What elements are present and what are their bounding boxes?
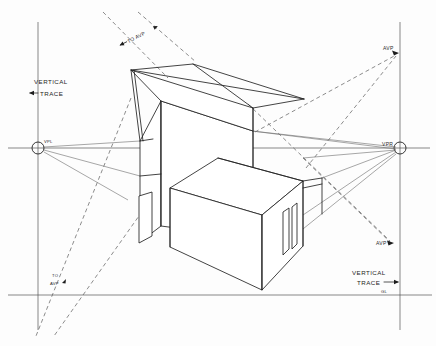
guide-vpr-d bbox=[303, 152, 396, 215]
dashed-to-avp-top-right-a bbox=[255, 55, 396, 132]
avp-bottom-right-label: AVP bbox=[376, 240, 387, 246]
to-avp-top-arrow-head-right bbox=[153, 24, 159, 30]
front-wing-eave-ext bbox=[303, 178, 322, 181]
vertical-trace-right-label-line1: VERTICAL bbox=[352, 269, 386, 276]
dashed-to-avp-bottom-left-b bbox=[54, 206, 146, 336]
door-opening-left bbox=[283, 208, 289, 255]
front-wing-block bbox=[170, 158, 322, 290]
vpl-label: VPL bbox=[44, 139, 53, 144]
avp-bottom-right-arrow-head bbox=[387, 241, 394, 246]
dashed-to-avp-bottom-right-b bbox=[303, 158, 390, 242]
guide-vpl-b bbox=[44, 150, 140, 176]
perspective-svg: VERTICAL TRACE VERTICAL TRACE GL VPL VPR… bbox=[0, 0, 436, 346]
door-opening-right bbox=[292, 203, 297, 249]
vertical-trace-right-arrow-head bbox=[394, 280, 399, 284]
main-house-roof-far-slope bbox=[193, 64, 304, 99]
vertical-trace-right-label-line2: TRACE bbox=[357, 279, 380, 286]
to-avp-top-label: TO AVP bbox=[126, 30, 146, 44]
dashed-to-avp-top-b bbox=[138, 12, 196, 62]
dashed-to-avp-top-a bbox=[103, 12, 168, 78]
vertical-trace-left-arrow-head bbox=[29, 91, 34, 95]
dashed-to-avp-bottom-left-a bbox=[36, 98, 131, 336]
front-wing-eave-ext-b bbox=[303, 184, 322, 188]
vertical-trace-left-label-line2: TRACE bbox=[40, 90, 63, 97]
guide-vpr-b bbox=[252, 131, 396, 149]
avp-top-right-label: AVP bbox=[383, 45, 394, 51]
to-avp-bottom-label-line1: TO bbox=[52, 273, 59, 278]
to-avp-bottom-arrow-head bbox=[62, 279, 66, 284]
ground-line-label: GL bbox=[381, 289, 387, 294]
to-avp-top-arrow-head-left bbox=[119, 42, 125, 48]
vertical-trace-left-label-line1: VERTICAL bbox=[34, 78, 68, 85]
vpr-label: VPR bbox=[382, 141, 393, 147]
door-opening-rear bbox=[139, 192, 152, 243]
avp-top-right-arrow-head bbox=[392, 51, 399, 56]
to-avp-bottom-label-line2: AVP bbox=[50, 281, 59, 286]
guide-vpl-a bbox=[44, 141, 140, 147]
guide-vpr-f bbox=[322, 150, 396, 178]
main-house-roof-right-verge bbox=[253, 99, 304, 108]
to-avp-top-group: TO AVP bbox=[118, 23, 159, 48]
perspective-drawing: VERTICAL TRACE VERTICAL TRACE GL VPL VPR… bbox=[0, 0, 436, 346]
guide-vpl-c bbox=[44, 152, 128, 200]
